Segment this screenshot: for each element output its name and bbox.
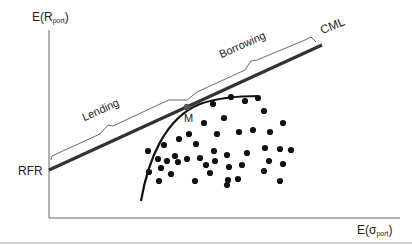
portfolio-dot (288, 147, 294, 153)
x-axis-label-close: ) (388, 223, 392, 237)
portfolio-dot (262, 145, 268, 151)
portfolio-dot (224, 182, 230, 188)
portfolio-dot (186, 131, 192, 137)
portfolio-dot (277, 146, 283, 152)
efficient-frontier-curve (141, 96, 259, 201)
portfolio-dot (146, 169, 152, 175)
portfolio-dot (244, 150, 250, 156)
market-portfolio-point (184, 104, 190, 110)
portfolio-dot (280, 120, 286, 126)
portfolio-dot (207, 170, 213, 176)
cml-diagram (0, 0, 412, 245)
portfolio-dot (193, 141, 199, 147)
portfolio-dot (168, 171, 174, 177)
market-portfolio-label: M (184, 113, 193, 124)
x-axis-label-main: E(σ (357, 223, 376, 237)
portfolio-dot (211, 148, 217, 154)
portfolio-dot (266, 158, 272, 164)
portfolio-dot (197, 155, 203, 161)
portfolio-dot (242, 98, 248, 104)
portfolio-dot (267, 129, 273, 135)
portfolio-dot (261, 168, 267, 174)
portfolio-dot (155, 156, 161, 162)
portfolio-dot (158, 165, 164, 171)
portfolio-dot (224, 152, 230, 158)
portfolio-dot (277, 178, 283, 184)
portfolio-dot (236, 129, 242, 135)
portfolio-dot (164, 158, 170, 164)
portfolio-dot (175, 159, 181, 165)
portfolio-dot (280, 161, 286, 167)
rfr-label: RFR (18, 165, 43, 177)
portfolio-dot (210, 101, 216, 107)
portfolio-dot (212, 158, 218, 164)
portfolio-dots (145, 94, 294, 188)
y-axis-label-main: E(R (32, 10, 53, 24)
bottom-divider (0, 242, 412, 244)
portfolio-dot (235, 176, 241, 182)
x-axis-label: E(σport) (357, 224, 392, 237)
portfolio-dot (214, 131, 220, 137)
portfolio-dot (201, 120, 207, 126)
portfolio-dot (261, 108, 267, 114)
portfolio-dot (145, 148, 151, 154)
portfolio-dot (226, 164, 232, 170)
portfolio-dot (172, 153, 178, 159)
portfolio-dot (184, 156, 190, 162)
portfolio-dot (221, 115, 227, 121)
portfolio-dot (161, 142, 167, 148)
x-axis-label-sub: port (376, 230, 388, 237)
y-axis-label: E(Rport) (32, 11, 69, 24)
portfolio-dot (156, 178, 162, 184)
portfolio-dot (192, 178, 198, 184)
portfolio-dot (239, 162, 245, 168)
portfolio-dot (228, 94, 234, 100)
y-axis-label-sub: port (53, 17, 65, 24)
portfolio-dot (203, 162, 209, 168)
portfolio-dot (176, 136, 182, 142)
y-axis-label-close: ) (65, 10, 69, 24)
portfolio-dot (250, 127, 256, 133)
portfolio-dot (255, 95, 261, 101)
